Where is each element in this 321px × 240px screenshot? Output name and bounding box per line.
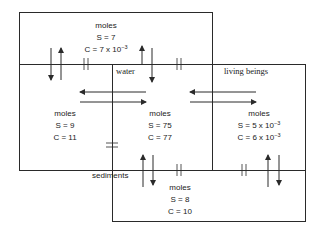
sediments-unit: moles <box>150 182 210 194</box>
living-beings-values: moles S = 5 x 10−3 C = 6 x 10−3 <box>219 108 299 144</box>
air-c-value: C = 7 x 10−3 <box>66 44 146 56</box>
soil-c-value: C = 11 <box>35 132 95 144</box>
living-beings-unit: moles <box>219 108 299 120</box>
air-values: moles S = 7 C = 7 x 10−3 <box>66 20 146 56</box>
equilibrium-icon <box>177 58 181 70</box>
living-beings-label: living beings <box>224 66 268 76</box>
water-s-value: S = 75 <box>130 120 190 132</box>
sediments-label: sediments <box>92 171 128 180</box>
soil-s-value: S = 9 <box>35 120 95 132</box>
soil-unit: moles <box>35 108 95 120</box>
equilibrium-icon <box>177 164 181 176</box>
water-unit: moles <box>130 108 190 120</box>
sediments-values: moles S = 8 C = 10 <box>150 182 210 218</box>
water-c-value: C = 77 <box>130 132 190 144</box>
air-unit: moles <box>66 20 146 32</box>
water-values: moles S = 75 C = 77 <box>130 108 190 144</box>
sediments-c-value: C = 10 <box>150 206 210 218</box>
living-beings-c-value: C = 6 x 10−3 <box>219 132 299 144</box>
air-s-value: S = 7 <box>66 32 146 44</box>
soil-values: moles S = 9 C = 11 <box>35 108 95 144</box>
living-beings-s-value: S = 5 x 10−3 <box>219 120 299 132</box>
sediments-s-value: S = 8 <box>150 194 210 206</box>
equilibrium-icon <box>242 164 246 176</box>
water-label: water <box>116 66 135 76</box>
equilibrium-icon <box>84 58 88 70</box>
equilibrium-icon <box>106 143 118 147</box>
